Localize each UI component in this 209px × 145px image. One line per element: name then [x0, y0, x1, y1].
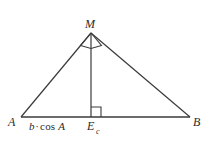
segment-length-label-ae: b·cos A: [29, 121, 65, 132]
segment-mb: [91, 33, 190, 117]
label-multiplication-dot: ·: [35, 120, 40, 132]
geometry-figure: M A B E c b·cos A: [0, 0, 209, 145]
vertex-label-e: E: [87, 120, 95, 132]
vertex-label-m: M: [85, 18, 95, 30]
vertex-label-a: A: [8, 116, 16, 128]
label-argument-a: A: [58, 120, 65, 132]
right-angle-marker-e-icon: [91, 107, 101, 117]
vertex-label-b: B: [193, 116, 201, 128]
label-function-cos: cos: [40, 120, 56, 132]
label-variable-b: b: [29, 120, 35, 132]
vertex-label-e-subscript: c: [96, 128, 100, 136]
